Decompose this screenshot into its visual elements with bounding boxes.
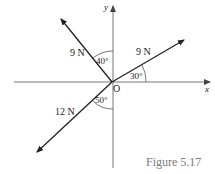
lower-left-angle: 50°: [95, 95, 108, 105]
force-diagram: 9 N 40° 9 N 30° 12 N 50° O x y Figure 5.…: [0, 0, 215, 174]
origin-label: O: [113, 83, 120, 94]
x-axis-label: x: [204, 84, 209, 94]
vector-lower-left: [37, 82, 112, 152]
vector-upper-left: [61, 19, 112, 82]
upper-right-angle: 30°: [130, 71, 143, 81]
lower-left-magnitude: 12 N: [55, 106, 75, 117]
upper-left-magnitude: 9 N: [70, 47, 85, 58]
upper-left-angle: 40°: [96, 56, 109, 66]
upper-right-magnitude: 9 N: [136, 46, 151, 57]
figure-caption: Figure 5.17: [146, 155, 201, 169]
y-axis-label: y: [103, 2, 108, 12]
